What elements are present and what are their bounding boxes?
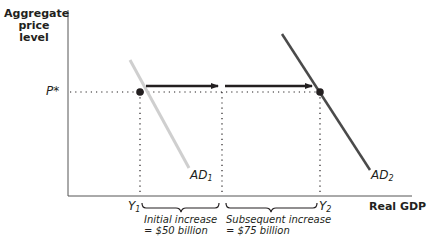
initial-increase-note: Initial increase = $50 billion xyxy=(144,214,217,236)
y1-label: Y1 xyxy=(128,199,140,214)
ad1-label-main: AD xyxy=(190,168,207,182)
ad1-label: AD1 xyxy=(190,168,213,183)
ad1-label-sub: 1 xyxy=(207,174,212,183)
ad2-label-main: AD xyxy=(371,168,388,182)
subsequent-increase-note: Subsequent increase = $75 billion xyxy=(226,214,331,236)
price-level-label: P* xyxy=(46,84,59,98)
subsequent-increase-line2: = $75 billion xyxy=(226,225,331,236)
y2-label: Y2 xyxy=(319,199,331,214)
x-axis-label: Real GDP xyxy=(369,200,426,213)
y1-label-sub: 1 xyxy=(135,205,140,214)
ad2-label: AD2 xyxy=(371,168,394,183)
y-axis-label-line3: level xyxy=(4,32,64,44)
y2-label-sub: 2 xyxy=(326,205,331,214)
ad-shift-diagram xyxy=(0,0,431,247)
subsequent-increase-line1: Subsequent increase xyxy=(226,214,331,225)
initial-increase-line2: = $50 billion xyxy=(144,225,217,236)
y-axis-label: Aggregate price level xyxy=(4,8,64,44)
equilibrium-point-2 xyxy=(316,88,324,96)
initial-increase-brace xyxy=(142,203,219,212)
subsequent-increase-brace xyxy=(226,203,317,212)
ad1-curve xyxy=(130,60,189,168)
initial-increase-line1: Initial increase xyxy=(144,214,217,225)
equilibrium-point-1 xyxy=(136,88,144,96)
ad2-label-sub: 2 xyxy=(388,174,393,183)
ad2-curve xyxy=(282,34,370,170)
